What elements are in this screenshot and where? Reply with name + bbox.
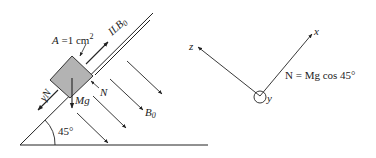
axis-x-label: x bbox=[313, 25, 319, 37]
lorentz-force-label: ILB0 bbox=[105, 15, 130, 40]
normal-pointer bbox=[91, 81, 99, 88]
angle-arc bbox=[45, 120, 55, 145]
physics-diagram: 45° A =1 cm2 ILB0 γN Mg N B0 z x y N = M… bbox=[0, 0, 376, 158]
field-label: B0 bbox=[145, 106, 156, 120]
axis-y-label: y bbox=[266, 92, 272, 104]
angle-label: 45° bbox=[58, 125, 73, 137]
normal-label: N bbox=[99, 86, 108, 98]
area-label: A =1 cm2 bbox=[51, 32, 93, 46]
normal-equation: N = Mg cos 45° bbox=[285, 69, 356, 81]
weight-label: Mg bbox=[74, 94, 90, 106]
friction-label: γN bbox=[37, 86, 54, 103]
axis-z-label: z bbox=[188, 40, 194, 52]
